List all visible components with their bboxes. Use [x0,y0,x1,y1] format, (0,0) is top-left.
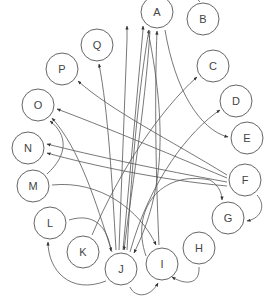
node-m: M [17,170,49,202]
node-j: J [105,253,137,285]
node-label: H [195,242,203,254]
node-g: G [212,202,244,234]
edge-j-to-i [130,283,158,295]
edge-b-to-a [166,0,200,2]
edge-a-to-e [165,30,228,137]
edge-f-to-g [247,195,262,221]
node-label: M [28,180,37,192]
node-label: K [79,246,87,258]
node-label: B [199,13,206,25]
node-label: L [47,217,53,229]
node-c: C [197,50,229,82]
node-label: I [160,258,163,270]
edge-m-to-i [52,184,156,245]
node-d: D [220,85,252,117]
nodes-layer: ABCDEFGHIJKLMNOPQ [12,0,263,285]
node-l: L [34,207,66,239]
directed-graph: ABCDEFGHIJKLMNOPQ [0,0,277,303]
node-label: J [118,263,124,275]
node-label: C [209,60,217,72]
node-h: H [183,232,215,264]
node-label: F [242,174,249,186]
node-label: Q [93,39,102,51]
node-k: K [67,236,99,268]
node-q: Q [81,29,113,61]
edge-i-to-a [156,31,159,245]
node-o: O [22,89,54,121]
edge-f-to-n [47,153,227,186]
node-i: I [146,248,178,280]
node-a: A [141,0,173,28]
node-p: P [46,53,78,85]
node-b: B [187,3,219,35]
node-e: E [231,122,263,154]
edge-j-to-a [127,30,149,250]
node-label: E [243,132,250,144]
node-n: N [12,132,44,164]
node-label: A [153,6,161,18]
node-label: G [224,212,233,224]
node-label: D [232,95,240,107]
node-label: N [24,142,32,154]
node-label: O [34,99,43,111]
node-label: P [58,63,65,75]
node-f: F [229,164,261,196]
